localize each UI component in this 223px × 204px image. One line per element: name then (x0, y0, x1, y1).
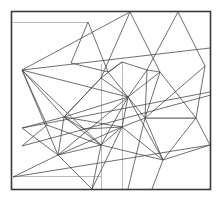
figure-container (0, 0, 223, 204)
line-mesh-figure (0, 0, 223, 204)
